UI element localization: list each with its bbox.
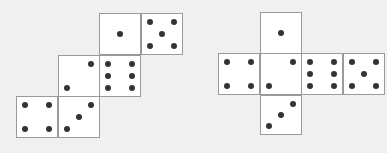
- pip: [171, 43, 177, 49]
- die-face-1: [260, 12, 302, 54]
- pip: [373, 83, 379, 89]
- pip: [159, 31, 165, 37]
- pip: [331, 59, 337, 65]
- pip: [105, 85, 111, 91]
- pip: [129, 85, 135, 91]
- pip: [278, 30, 284, 36]
- pip: [46, 102, 52, 108]
- pip: [129, 61, 135, 67]
- pip: [361, 71, 367, 77]
- pip: [22, 126, 28, 132]
- pip: [248, 83, 254, 89]
- die-face-3: [58, 96, 100, 138]
- pip: [349, 59, 355, 65]
- pip: [290, 59, 296, 65]
- die-face-6: [301, 53, 343, 95]
- pip: [331, 71, 337, 77]
- pip: [105, 73, 111, 79]
- pip: [278, 112, 284, 118]
- pip: [307, 59, 313, 65]
- pip: [248, 59, 254, 65]
- pip: [307, 71, 313, 77]
- pip: [88, 102, 94, 108]
- pip: [171, 19, 177, 25]
- pip: [147, 19, 153, 25]
- pip: [266, 83, 272, 89]
- pip: [64, 126, 70, 132]
- die-face-6: [99, 55, 141, 97]
- pip: [22, 102, 28, 108]
- pip: [224, 59, 230, 65]
- die-face-1: [99, 13, 141, 55]
- pip: [129, 73, 135, 79]
- pip: [46, 126, 52, 132]
- pip: [307, 83, 313, 89]
- die-face-4: [16, 96, 58, 138]
- pip: [224, 83, 230, 89]
- pip: [105, 61, 111, 67]
- pip: [64, 85, 70, 91]
- pip: [290, 101, 296, 107]
- pip: [349, 83, 355, 89]
- pip: [373, 59, 379, 65]
- pip: [147, 43, 153, 49]
- die-face-5: [343, 53, 385, 95]
- die-face-3: [260, 95, 302, 135]
- pip: [117, 31, 123, 37]
- die-face-4: [218, 53, 260, 95]
- die-face-5: [141, 13, 183, 55]
- die-face-2: [260, 53, 302, 95]
- pip: [88, 61, 94, 67]
- pip: [266, 123, 272, 129]
- pip: [76, 114, 82, 120]
- pip: [331, 83, 337, 89]
- die-face-2: [58, 55, 100, 97]
